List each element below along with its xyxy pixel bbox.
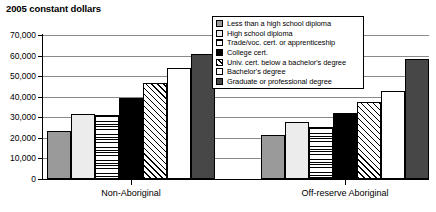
legend-item[interactable]: College cert.: [216, 48, 359, 58]
y-axis-tick-label: 70,000: [10, 30, 36, 40]
legend-swatch-icon: [216, 30, 223, 37]
y-axis-tick: [38, 179, 43, 180]
bar: [261, 135, 285, 179]
y-axis-tick-label: 50,000: [10, 71, 36, 81]
y-axis-tick: [38, 117, 43, 118]
y-axis-labels: 70,00060,00050,00040,00030,00020,00010,0…: [0, 0, 36, 212]
bar: [285, 122, 309, 179]
bar: [71, 114, 95, 179]
bar: [167, 68, 191, 179]
legend-item-label: High school diploma: [227, 29, 293, 38]
legend-swatch-icon: [216, 59, 223, 66]
y-axis-tick: [38, 158, 43, 159]
legend-item-label: College cert.: [227, 48, 268, 57]
legend-item[interactable]: Bachelor's degree: [216, 67, 359, 77]
bar: [381, 91, 405, 179]
legend-item-label: Bachelor's degree: [227, 67, 286, 76]
y-axis-tick: [38, 56, 43, 57]
y-axis-tick-label: 10,000: [10, 153, 36, 163]
bar-chart: 2005 constant dollars 70,00060,00050,000…: [0, 0, 436, 212]
x-axis-tick: [345, 179, 346, 185]
legend-item[interactable]: Trade/voc. cert. or apprenticeship: [216, 38, 359, 48]
legend-item[interactable]: Univ. cert. below a bachelor's degree: [216, 57, 359, 67]
legend-item[interactable]: High school diploma: [216, 29, 359, 39]
bar: [95, 115, 119, 179]
legend-swatch-icon: [216, 49, 223, 56]
legend-swatch-icon: [216, 78, 223, 85]
gridline: [43, 97, 429, 98]
bar: [309, 127, 333, 179]
legend-item-label: Trade/voc. cert. or apprenticeship: [227, 38, 335, 47]
legend-swatch-icon: [216, 68, 223, 75]
y-axis-tick: [38, 138, 43, 139]
bar: [47, 131, 71, 179]
y-axis-tick-label: 30,000: [10, 112, 36, 122]
x-axis-group-label: Off-reserve Aboriginal: [302, 188, 389, 198]
gridline: [43, 179, 429, 180]
y-axis-tick: [38, 97, 43, 98]
y-axis-tick: [38, 76, 43, 77]
y-axis-tick-label: 20,000: [10, 133, 36, 143]
legend-item-label: Graduate or professional degree: [227, 77, 332, 86]
legend-item-label: Less than a high school diploma: [227, 19, 331, 28]
y-axis-tick-label: 0: [31, 174, 36, 184]
y-axis-tick: [38, 35, 43, 36]
bar: [405, 59, 429, 179]
legend-item[interactable]: Graduate or professional degree: [216, 77, 359, 87]
y-axis-tick-label: 40,000: [10, 92, 36, 102]
x-axis-tick: [131, 179, 132, 185]
chart-legend: Less than a high school diplomaHigh scho…: [212, 16, 364, 89]
legend-swatch-icon: [216, 39, 223, 46]
bar: [357, 102, 381, 179]
bar: [333, 113, 357, 179]
legend-item[interactable]: Less than a high school diploma: [216, 19, 359, 29]
bar: [119, 98, 143, 179]
legend-swatch-icon: [216, 20, 223, 27]
bar: [143, 83, 167, 179]
legend-item-label: Univ. cert. below a bachelor's degree: [227, 58, 346, 67]
x-axis-group-label: Non-Aboriginal: [101, 188, 161, 198]
y-axis-tick-label: 60,000: [10, 51, 36, 61]
